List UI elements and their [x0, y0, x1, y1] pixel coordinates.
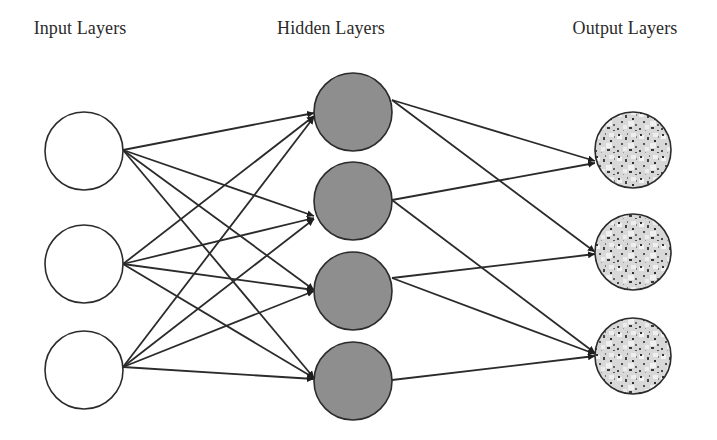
edge-h2-o3 [392, 200, 595, 353]
hidden-node-h1 [314, 73, 392, 151]
output-node-o3 [595, 318, 671, 394]
edge-i2-h4 [123, 264, 314, 378]
hidden-node-h2 [314, 162, 392, 240]
edge-h1-o2 [392, 100, 595, 252]
input-node-i1 [45, 112, 123, 190]
neural-network-diagram [0, 0, 717, 440]
output-node-o2 [595, 214, 671, 290]
input-node-i3 [45, 331, 123, 409]
hidden-node-h3 [314, 252, 392, 330]
edge-i3-h4 [123, 367, 314, 379]
output-node-o1 [595, 112, 671, 188]
input-node-i2 [45, 225, 123, 303]
hidden-node-h4 [314, 342, 392, 420]
edge-h3-o2 [392, 254, 595, 278]
edge-i1-h1 [123, 113, 314, 150]
edge-h4-o3 [392, 356, 595, 380]
edge-h1-o1 [392, 100, 595, 161]
edge-h3-o3 [392, 278, 595, 354]
edge-i1-h3 [123, 150, 314, 290]
edge-h2-o1 [392, 163, 595, 200]
